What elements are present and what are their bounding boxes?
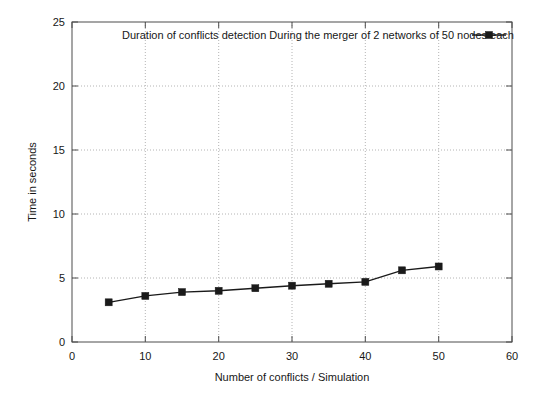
y-tick-label: 10 [53,208,65,220]
y-tick-label: 25 [53,16,65,28]
x-tick-label: 20 [213,350,225,362]
y-tick-label: 20 [53,80,65,92]
data-point [215,287,222,294]
x-tick-label: 50 [433,350,445,362]
x-tick-label: 60 [506,350,518,362]
x-tick-label: 10 [139,350,151,362]
data-point [179,289,186,296]
data-point [399,267,406,274]
data-point [325,280,332,287]
x-tick-label: 30 [286,350,298,362]
x-tick-label: 40 [359,350,371,362]
x-tick-labels: 0 10 20 30 40 50 60 [69,350,518,362]
legend-entry-label: Duration of conflicts detection During t… [122,29,514,41]
x-axis-title: Number of conflicts / Simulation [215,371,370,383]
data-point [142,292,149,299]
x-tick-label: 0 [69,350,75,362]
data-point [362,278,369,285]
data-point [435,263,442,270]
data-point [252,285,259,292]
legend: Duration of conflicts detection During t… [122,29,514,41]
vertical-gridlines [145,22,438,342]
y-tick-label: 15 [53,144,65,156]
y-axis-title: Time in seconds [26,142,38,222]
y-tick-label: 0 [59,336,65,348]
series-line [109,266,439,302]
series-markers [105,263,442,306]
line-chart: 0 5 10 15 20 25 0 10 20 30 40 50 60 Numb… [0,0,555,400]
data-point [289,282,296,289]
data-series [105,263,442,306]
chart-container: 0 5 10 15 20 25 0 10 20 30 40 50 60 Numb… [0,0,555,400]
y-tick-labels: 0 5 10 15 20 25 [53,16,65,348]
data-point [105,299,112,306]
y-tick-label: 5 [59,272,65,284]
